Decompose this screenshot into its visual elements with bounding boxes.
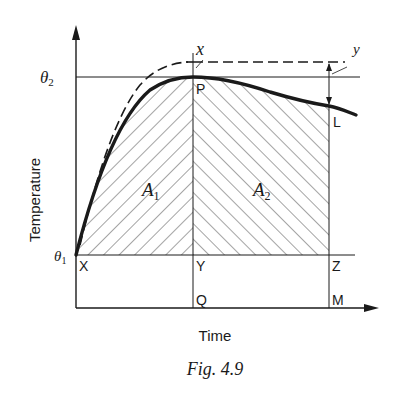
theta2-label: θ2	[40, 68, 54, 88]
point-y-label: Y	[196, 258, 206, 274]
y-axis-arrow-icon	[72, 25, 80, 40]
area-a2-hatch	[193, 70, 329, 255]
point-x-label: X	[79, 258, 89, 274]
point-m-label: M	[332, 292, 344, 308]
area-a1-hatch	[76, 70, 193, 255]
point-l-label: L	[333, 114, 341, 130]
figure-caption: Fig. 4.9	[186, 359, 244, 379]
x-axis-label: Time	[199, 327, 232, 344]
point-z-label: Z	[332, 258, 341, 274]
temperature-time-diagram: θ2 θ1 x y P L X Y Z Q M A1 A2 Temperatur…	[0, 0, 394, 398]
y-leader-line	[332, 67, 347, 74]
y-difference-arrow	[326, 63, 332, 105]
theta1-label: θ1	[54, 248, 66, 266]
point-q-label: Q	[196, 292, 207, 308]
annotation-y: y	[351, 41, 360, 57]
x-axis-arrow-icon	[364, 304, 379, 312]
y-axis-label: Temperature	[26, 158, 43, 242]
point-p-label: P	[196, 81, 205, 97]
annotation-x: x	[195, 39, 204, 59]
